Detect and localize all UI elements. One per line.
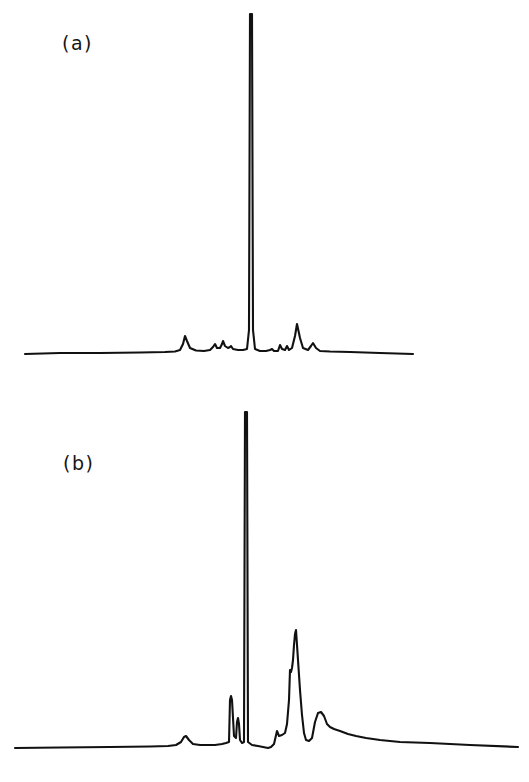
panel-a-plot — [0, 0, 529, 400]
chart-panel-a: (a) — [0, 0, 529, 400]
trace-line-a — [25, 14, 413, 354]
panel-b-label: (b) — [63, 452, 94, 474]
figure-container: (a) (b) — [0, 0, 529, 782]
panel-a-label: (a) — [62, 32, 93, 54]
